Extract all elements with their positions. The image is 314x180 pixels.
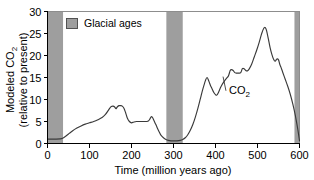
y-axis-tick-label: 20: [29, 50, 41, 62]
co2-annotation-subscript: 2: [245, 90, 250, 99]
y-axis-tick-label: 5: [35, 116, 41, 128]
x-axis-tick-label: 500: [248, 149, 266, 161]
y-axis-tick-labels: 051015202530: [29, 6, 41, 150]
x-axis-tick-label: 200: [122, 149, 140, 161]
legend-label-glacial-ages: Glacial ages: [84, 17, 142, 29]
x-axis-tick-label: 600: [290, 149, 308, 161]
y-axis-ticks: [44, 12, 48, 144]
legend-swatch-glacial-ages: [66, 18, 78, 29]
y-axis-title-main: Modeled CO: [4, 51, 16, 113]
figure-container: 051015202530 0100200300400500600 Time (m…: [0, 0, 314, 180]
x-axis-tick-label: 400: [206, 149, 224, 161]
co2-history-chart: 051015202530 0100200300400500600 Time (m…: [0, 0, 314, 180]
glacial-age-band: [166, 12, 182, 144]
y-axis-tick-label: 0: [35, 138, 41, 150]
y-axis-tick-label: 25: [29, 28, 41, 40]
co2-annotation-main: CO: [229, 84, 246, 96]
x-axis-title: Time (million years ago): [115, 164, 232, 176]
legend: Glacial ages: [66, 17, 142, 29]
x-axis-tick-label: 100: [80, 149, 98, 161]
x-axis-tick-label: 0: [44, 149, 50, 161]
y-axis-title-line2: (relative to present): [17, 33, 29, 128]
x-axis-ticks: [48, 144, 300, 148]
y-axis-tick-label: 10: [29, 94, 41, 106]
y-axis-tick-label: 15: [29, 72, 41, 84]
glacial-age-band: [48, 12, 64, 144]
x-axis-tick-label: 300: [164, 149, 182, 161]
x-axis-tick-labels: 0100200300400500600: [44, 149, 308, 161]
y-axis-tick-label: 30: [29, 6, 41, 18]
